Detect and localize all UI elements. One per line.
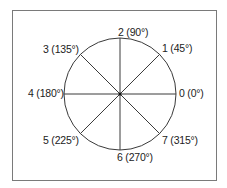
label-direction-4: 4 (180°) [28,87,64,99]
label-direction-2: 2 (90°) [118,26,148,38]
label-direction-0: 0 (0°) [179,87,204,99]
center-dot [119,93,122,96]
label-direction-3: 3 (135°) [43,43,79,55]
label-direction-1: 1 (45°) [162,42,192,54]
label-direction-7: 7 (315°) [162,134,198,146]
label-direction-5: 5 (225°) [43,134,79,146]
label-direction-6: 6 (270°) [117,151,153,163]
